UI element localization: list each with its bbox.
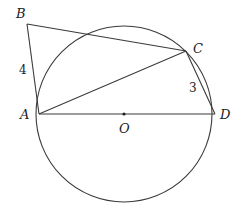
length-CD: 3: [189, 81, 197, 95]
geometry-diagram: B C A D O 4 3: [0, 0, 245, 217]
center-point-O: [122, 112, 125, 115]
label-B: B: [15, 6, 26, 21]
label-O: O: [119, 121, 130, 136]
segment-AB: [27, 24, 39, 114]
label-C: C: [193, 41, 203, 56]
segment-AC: [39, 51, 186, 114]
label-D: D: [219, 107, 231, 122]
length-AB: 4: [19, 63, 27, 77]
label-A: A: [19, 107, 29, 122]
